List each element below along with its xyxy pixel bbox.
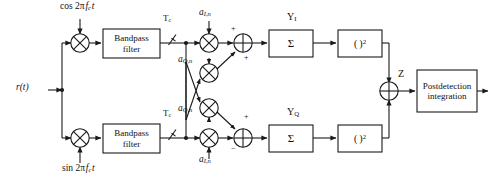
- lower-adder-plus-top: +: [244, 113, 249, 121]
- upper-output-signal-label: YI: [287, 12, 297, 23]
- upper-sum-box: [269, 30, 313, 57]
- upper-adder: [234, 34, 252, 52]
- lower-top-multiplier: [200, 99, 218, 117]
- upper-bandpass-filter-box: [103, 29, 160, 58]
- upper-square-box: [338, 30, 382, 57]
- upper-adder-plus-bottom: +: [244, 54, 249, 62]
- diagram-canvas: [0, 0, 491, 184]
- upper-second-code-label: aQ,n: [178, 55, 192, 65]
- lower-square-box: [338, 125, 382, 152]
- lower-bandpass-filter-box: [103, 124, 160, 153]
- lower-top-code-label: aQ,n: [178, 104, 192, 114]
- decision-variable-label: Z: [398, 69, 404, 80]
- lower-split-wire: [178, 62, 200, 140]
- lower-multiplier: [71, 129, 89, 147]
- final-adder: [380, 82, 398, 100]
- input-label: r(t): [16, 83, 29, 93]
- cross-wire-upper-to-lower-top: [186, 62, 200, 102]
- lower-output-signal-label: YQ: [287, 107, 299, 118]
- postdetection-box: [417, 70, 477, 112]
- lower-adder: [234, 129, 252, 147]
- lower-sum-box: [269, 125, 313, 152]
- upper-square-to-final-adder-wire: [382, 43, 389, 83]
- upper-adder-plus-top: +: [231, 25, 236, 33]
- lower-carrier-label: sin 2π fc t: [62, 164, 95, 174]
- upper-carrier-label: cos 2π fc t: [60, 2, 94, 12]
- lower-bottom-multiplier: [200, 129, 218, 147]
- upper-multiplier: [71, 34, 89, 52]
- upper-top-code-label: aI,n: [199, 8, 211, 18]
- upper-switch-label: Tc: [163, 14, 171, 24]
- lower-sampling-switch: [167, 130, 178, 141]
- lower-top-to-adder-wire: [217, 112, 235, 129]
- lower-adder-minus-bottom: −: [231, 145, 236, 153]
- input-trunk-wire: [48, 43, 64, 138]
- upper-second-multiplier: [200, 64, 218, 82]
- lower-bottom-code-label: aI,n: [199, 155, 211, 165]
- upper-sampling-switch: [167, 35, 178, 46]
- upper-second-to-adder-wire: [217, 52, 235, 69]
- lower-square-to-final-adder-wire: [382, 100, 389, 138]
- block-diagram: r(t) cos 2π fc t sin 2π fc t Tc Tc aI,n …: [0, 0, 491, 184]
- upper-top-multiplier: [200, 34, 218, 52]
- lower-switch-label: Tc: [163, 109, 171, 119]
